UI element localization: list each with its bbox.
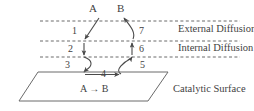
step-3-arrow-pore-to-surface xyxy=(84,57,91,72)
step-label-2: 2 xyxy=(68,44,73,54)
step-1-arrow-external-diffusion xyxy=(85,18,99,39)
step-label-7: 7 xyxy=(139,26,144,36)
species-label-reactant-a: A xyxy=(89,3,97,14)
step-label-4: 4 xyxy=(101,69,106,79)
surface-reaction-label: A → B xyxy=(80,84,108,94)
step-label-3: 3 xyxy=(65,60,70,70)
zone-label-internal-diffusion: Internal Diffusion xyxy=(178,43,253,54)
step-label-6: 6 xyxy=(139,44,144,54)
species-label-product-b: B xyxy=(117,3,124,14)
step-label-1: 1 xyxy=(72,26,77,36)
zone-label-catalytic-surface: Catalytic Surface xyxy=(173,84,246,95)
step-5-arrow-surface-to-pore xyxy=(119,57,132,74)
catalysis-steps-diagram: A B 1 2 3 4 5 6 7 External Diffusion Int… xyxy=(0,0,254,111)
step-label-5: 5 xyxy=(140,60,145,70)
zone-label-external-diffusion: External Diffusion xyxy=(178,24,254,35)
